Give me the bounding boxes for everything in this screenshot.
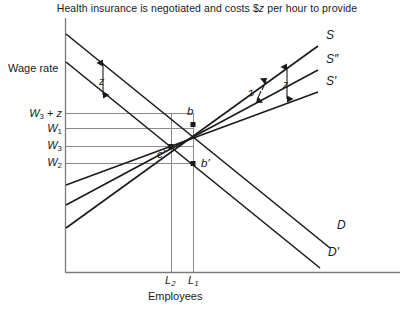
axis-lines: [66, 18, 401, 273]
supply-demand-diagram: Health insurance is negotiated and costs…: [0, 0, 414, 309]
point-marker-c-prime: [169, 144, 174, 149]
y-tick-w1-text: W1: [47, 122, 62, 134]
supply-curve-s-double-prime: [66, 70, 318, 205]
curve-label-d-prime: D′: [328, 245, 339, 259]
x-axis-title: Employees: [148, 290, 202, 302]
y-axis-title: Wage rate: [8, 62, 58, 74]
y-tick-w3-plus-z-text: W3 + z: [29, 107, 62, 119]
z-label-supply-vertical: z: [283, 78, 288, 90]
demand-curves: [66, 34, 330, 268]
point-label-c-prime: c′: [157, 148, 165, 160]
y-tick-label-w3: W3: [0, 139, 62, 153]
y-tick-w2-text: W2: [47, 156, 62, 168]
y-tick-label-w1: W1: [0, 122, 62, 136]
point-marker-b-prime: [191, 161, 196, 166]
curve-label-s-double-prime: S″: [326, 52, 338, 66]
point-marker-b: [191, 122, 196, 127]
z-label-demand-gap: z: [99, 75, 104, 87]
y-tick-w3-text: W3: [47, 139, 62, 151]
curve-label-d: D: [337, 218, 346, 232]
z-arrow-supply-perp-down: [257, 91, 261, 100]
employment-droplines: [172, 113, 194, 272]
plot-canvas: [0, 0, 414, 309]
point-label-b: b: [187, 105, 193, 117]
x-tick-label-l1: L1: [188, 274, 199, 288]
y-tick-label-w2: W2: [0, 156, 62, 170]
curve-label-s: S: [326, 28, 334, 42]
supply-curves: [66, 46, 318, 228]
x-tick-label-l2: L2: [165, 274, 176, 288]
curve-label-s-prime: S′: [326, 74, 336, 88]
z-annotation-supply-perpendicular: [257, 81, 266, 100]
point-label-b-prime: b′: [201, 157, 210, 169]
y-tick-label-w3-plus-z: W3 + z: [0, 107, 62, 121]
